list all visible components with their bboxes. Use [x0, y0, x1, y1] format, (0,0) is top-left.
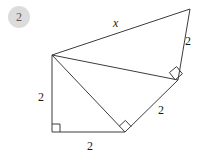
- outer-polygon: [52, 9, 190, 132]
- right-angle-bottom-left-icon: [52, 124, 60, 132]
- right-angle-right-icon: [169, 67, 182, 80]
- interior-diagonal-upper: [52, 55, 178, 80]
- right-angle-bottom-middle-icon: [119, 120, 131, 126]
- label-2-right-upper: 2: [185, 35, 191, 47]
- label-2-right-lower: 2: [158, 104, 164, 116]
- interior-diagonal-lower: [52, 55, 125, 132]
- label-2-left: 2: [38, 91, 44, 103]
- label-x-top: x: [113, 17, 118, 29]
- geometry-figure: [0, 0, 199, 155]
- label-2-bottom: 2: [87, 140, 93, 152]
- figure-page: 2 x 2 2 2 2: [0, 0, 199, 155]
